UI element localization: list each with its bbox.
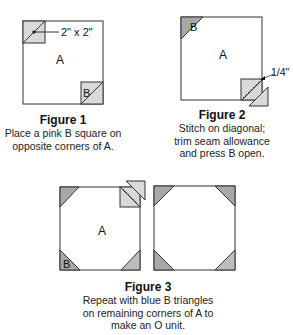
caption-line: Repeat with blue B triangles — [70, 294, 226, 307]
figure-2-caption: Figure 2 Stitch on diagonal; trim seam a… — [160, 108, 284, 160]
caption-line: and press B open. — [160, 147, 284, 160]
figure-1-caption: Figure 1 Place a pink B square on opposi… — [0, 113, 126, 152]
caption-line: Place a pink B square on — [0, 127, 126, 140]
figure-1-title: Figure 1 — [0, 113, 126, 127]
caption-line: on remaining corners of A to — [70, 307, 226, 320]
dimension-label: 2" x 2" — [61, 26, 93, 38]
label-b: B — [83, 87, 90, 99]
o-unit-square — [154, 186, 235, 270]
label-a: A — [56, 53, 64, 67]
label-b: B — [63, 258, 70, 270]
figure-2-title: Figure 2 — [160, 108, 284, 122]
label-b: B — [190, 21, 197, 33]
figure-3-right-drawing — [154, 186, 235, 270]
label-a: A — [98, 224, 106, 238]
caption-line: make an O unit. — [70, 319, 226, 332]
label-a: A — [219, 48, 227, 62]
caption-line: Stitch on diagonal; — [160, 122, 284, 135]
figure-3-title: Figure 3 — [70, 280, 226, 294]
figure-3-caption: Figure 3 Repeat with blue B triangles on… — [70, 280, 226, 332]
caption-line: opposite corners of A. — [0, 140, 126, 153]
seam-allowance-label: 1/4" — [271, 66, 290, 78]
caption-line: trim seam allowance — [160, 135, 284, 148]
